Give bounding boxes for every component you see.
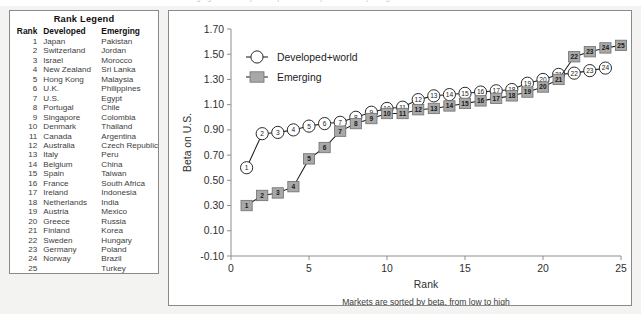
table-row: 9SingaporeColombia — [10, 113, 158, 122]
y-tick-label: -0.10 — [200, 251, 224, 262]
point-label: 13 — [430, 105, 438, 112]
cell-emerging: Thailand — [101, 122, 158, 131]
table-row: 19AustriaMexico — [10, 207, 158, 216]
table-row: 11CanadaArgentina — [10, 132, 158, 141]
data-point: 25 — [615, 40, 626, 50]
y-tick-label: 0.50 — [204, 175, 224, 186]
table-row: 25Turkey — [10, 264, 158, 273]
point-label: 24 — [602, 64, 610, 71]
cell-emerging: Sri Lanka — [101, 65, 158, 74]
data-point: 7 — [335, 126, 346, 136]
x-tick-label: 0 — [228, 263, 234, 274]
y-tick-label: 1.70 — [204, 24, 224, 35]
data-point: 22 — [569, 52, 580, 62]
point-label: 8 — [354, 120, 358, 127]
data-point: 1 — [241, 200, 252, 210]
cell-developed: Singapore — [43, 113, 101, 122]
cell-developed: Australia — [43, 141, 101, 150]
chart-legend: Developed+worldEmerging — [246, 51, 358, 83]
point-label: 6 — [323, 144, 327, 151]
chart-caption: Markets are sorted by beta, from low to … — [342, 297, 510, 305]
table-row: 23GermanyPoland — [10, 245, 158, 254]
cell-developed: Switzerland — [43, 46, 101, 55]
plot-area: -0.100.100.300.500.700.901.101.301.501.7… — [169, 11, 631, 305]
point-label: 24 — [602, 44, 610, 51]
y-tick-label: 1.30 — [204, 74, 224, 85]
cell-emerging: Korea — [101, 226, 158, 235]
point-label: 15 — [461, 90, 469, 97]
cell-rank: 16 — [10, 179, 43, 188]
cell-rank: 7 — [10, 94, 43, 103]
table-row: 3IsraelMorocco — [10, 56, 158, 65]
column-header-rank: Rank — [10, 26, 43, 37]
data-point: 23 — [584, 65, 596, 77]
cell-developed: Spain — [43, 169, 101, 178]
cell-developed: Greece — [43, 217, 101, 226]
cell-developed: Norway — [43, 254, 101, 263]
cell-emerging: China — [101, 160, 158, 169]
cut-off-heading: hedging of currency risk represented by … — [183, 0, 412, 2]
data-point: 3 — [272, 188, 283, 198]
rank-legend-body: 1JapanPakistan2SwitzerlandJordan3IsraelM… — [10, 37, 158, 273]
data-point: 2 — [257, 190, 268, 200]
cell-developed: U.S. — [43, 94, 101, 103]
cell-rank: 4 — [10, 65, 43, 74]
cell-rank: 15 — [10, 169, 43, 178]
data-point: 20 — [537, 82, 548, 92]
cell-emerging: Taiwan — [101, 169, 158, 178]
data-point: 24 — [599, 62, 611, 74]
cell-developed: U.K. — [43, 84, 101, 93]
point-label: 19 — [524, 80, 532, 87]
table-row: 6U.K.Philippines — [10, 84, 158, 93]
cell-rank: 21 — [10, 226, 43, 235]
cell-emerging: Peru — [101, 150, 158, 159]
data-point: 2 — [256, 128, 268, 140]
point-label: 2 — [260, 130, 264, 137]
legend-marker-circle — [251, 51, 263, 63]
point-label: 13 — [430, 92, 438, 99]
y-tick-label: 1.50 — [204, 49, 224, 60]
legend-marker-square — [250, 72, 264, 82]
point-label: 16 — [477, 88, 485, 95]
data-point: 22 — [568, 67, 580, 79]
point-label: 3 — [276, 129, 280, 136]
table-row: 20GreeceRussia — [10, 217, 158, 226]
y-axis-title: Beta on U.S. — [182, 113, 193, 172]
table-row: 22SwedenHungary — [10, 236, 158, 245]
cell-emerging: Brazil — [101, 254, 158, 263]
point-label: 5 — [307, 155, 311, 162]
cell-emerging: India — [101, 198, 158, 207]
cell-developed: Netherlands — [43, 198, 101, 207]
cell-rank: 22 — [10, 236, 43, 245]
data-point: 15 — [459, 98, 470, 108]
cell-developed: New Zealand — [43, 65, 101, 74]
data-point: 8 — [350, 118, 361, 128]
data-point: 10 — [381, 108, 392, 118]
point-label: 12 — [415, 106, 423, 113]
point-label: 16 — [477, 97, 485, 104]
point-label: 18 — [508, 92, 516, 99]
point-label: 23 — [586, 67, 594, 74]
x-tick-label: 5 — [306, 263, 312, 274]
point-label: 20 — [539, 83, 547, 90]
table-row: 1JapanPakistan — [10, 37, 158, 46]
figure-page: Rank Legend Rank Developed Emerging 1Jap… — [0, 6, 641, 314]
cell-rank: 13 — [10, 150, 43, 159]
point-label: 19 — [524, 88, 532, 95]
data-point: 1 — [241, 162, 253, 174]
data-point: 16 — [475, 96, 486, 106]
cell-emerging: Poland — [101, 245, 158, 254]
table-row: 2SwitzerlandJordan — [10, 46, 158, 55]
cell-emerging: Czech Republic — [101, 141, 158, 150]
column-header-developed: Developed — [43, 26, 101, 37]
cell-emerging: Hungary — [101, 236, 158, 245]
point-label: 11 — [399, 110, 406, 117]
cell-rank: 19 — [10, 207, 43, 216]
table-row: 10DenmarkThailand — [10, 122, 158, 131]
cell-rank: 9 — [10, 113, 43, 122]
data-point: 18 — [506, 91, 517, 101]
cell-developed: Sweden — [43, 236, 101, 245]
data-point: 21 — [553, 74, 564, 84]
data-point: 6 — [319, 117, 331, 129]
cell-emerging: Russia — [101, 217, 158, 226]
